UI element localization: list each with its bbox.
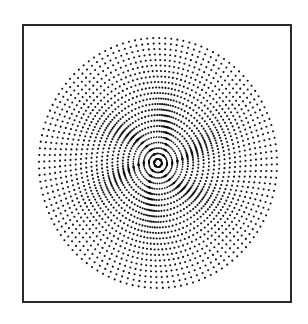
radial-dot-pattern — [0, 0, 308, 324]
